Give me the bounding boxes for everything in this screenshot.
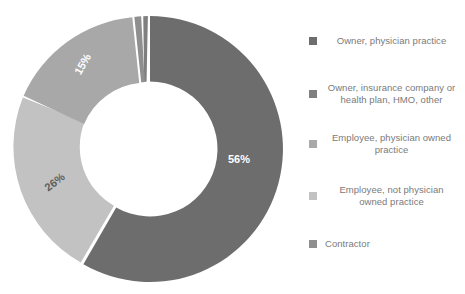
chart-area: 56% 26% 15%	[0, 0, 300, 294]
legend-swatch-icon-employee-physician-owned-practice	[309, 140, 317, 148]
legend-item-employee-physician-owned-practice[interactable]: Employee, physician owned practice	[303, 130, 463, 158]
legend-swatch-icon-owner-physician-practice	[309, 37, 317, 45]
legend-item-contractor[interactable]: Contractor	[303, 237, 463, 251]
legend-swatch-icon-contractor	[309, 240, 317, 248]
slice-label-owner-physician-practice: 56%	[228, 153, 250, 165]
legend-label-contractor: Contractor	[324, 238, 463, 251]
legend-label-owner-physician-practice: Owner, physician practice	[324, 35, 463, 48]
chart-legend: Owner, physician practice Owner, insuran…	[303, 34, 463, 259]
legend-swatch-icon-owner-insurance-company	[309, 90, 317, 98]
donut-chart: 56% 26% 15%	[0, 0, 300, 294]
legend-swatch-icon-employee-not-physician-owned-practice	[309, 192, 317, 200]
donut-chart-page: 56% 26% 15% Owner, physician practice Ow…	[0, 0, 465, 294]
legend-label-employee-not-physician-owned-practice: Employee, not physician owned practice	[324, 184, 463, 209]
legend-item-employee-not-physician-owned-practice[interactable]: Employee, not physician owned practice	[303, 182, 463, 210]
legend-label-owner-insurance-company: Owner, insurance company or health plan,…	[324, 82, 463, 107]
legend-label-employee-physician-owned-practice: Employee, physician owned practice	[324, 132, 463, 157]
legend-item-owner-physician-practice[interactable]: Owner, physician practice	[303, 34, 463, 48]
legend-item-owner-insurance-company[interactable]: Owner, insurance company or health plan,…	[303, 74, 463, 114]
